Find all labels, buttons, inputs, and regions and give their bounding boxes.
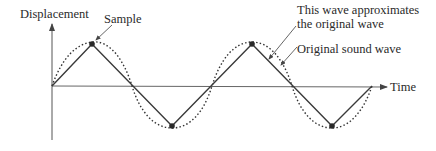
- sample-label: Sample: [104, 12, 142, 26]
- original-wave-label: Original sound wave: [297, 42, 402, 56]
- sample-pointer-arrow: [96, 25, 112, 40]
- sound-sampling-diagram: Displacement Sample This wave approximat…: [0, 0, 436, 151]
- sample-point: [169, 123, 175, 129]
- approx-wave-label-line1: This wave approximates: [297, 3, 419, 17]
- x-axis: [52, 86, 387, 87]
- y-axis-label: Displacement: [20, 7, 89, 21]
- approx-wave-label-line2: the original wave: [297, 17, 384, 31]
- approx-pointer-arrow: [269, 26, 296, 59]
- x-axis-label: Time: [390, 80, 416, 94]
- sample-point: [329, 123, 335, 129]
- diagram-canvas: Displacement Sample This wave approximat…: [0, 0, 436, 151]
- original-pointer-arrow: [281, 47, 297, 65]
- sample-point: [89, 41, 95, 47]
- approximated-wave: [52, 44, 372, 126]
- sample-point: [249, 41, 255, 47]
